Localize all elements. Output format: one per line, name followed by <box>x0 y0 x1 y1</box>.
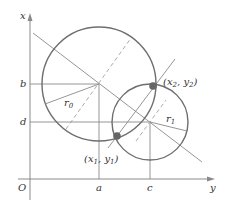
point-label-1: (x1, y1) <box>84 153 119 166</box>
intersection-point-1 <box>113 132 121 140</box>
origin-label: O <box>18 182 26 193</box>
point-label-2: (x2, y2) <box>163 76 198 89</box>
tick-label-d: d <box>20 116 26 127</box>
vertical-axis-label: x <box>20 10 26 21</box>
radius-label-r1: r1 <box>166 113 175 126</box>
tick-label-c: c <box>147 182 153 193</box>
circle-intersection-diagram: x y O b d a c r0 r1 (x1, y1) (x2, y2) <box>0 0 230 212</box>
horizontal-axis-label: y <box>209 182 216 193</box>
vertical-axis-arrow-icon <box>28 13 33 21</box>
intersection-point-2 <box>149 82 157 90</box>
tick-label-b: b <box>20 78 26 89</box>
tick-label-a: a <box>96 182 102 193</box>
radius-label-r0: r0 <box>64 97 74 110</box>
horizontal-axis-arrow-icon <box>207 177 215 182</box>
